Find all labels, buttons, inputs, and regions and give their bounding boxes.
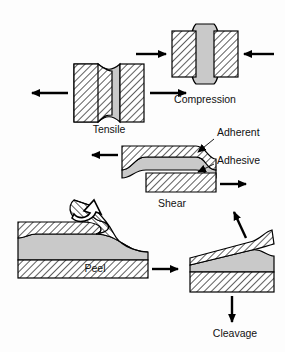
caption-tensile: Tensile [93,123,126,135]
caption-shear: Shear [158,197,187,209]
cleavage-adherent-bottom [190,272,274,292]
caption-compression: Compression [174,93,236,105]
compression-adherent-left [172,31,196,77]
peel-adherent-bottom [18,260,148,278]
tensile-adherent-left-block [74,64,98,122]
caption-cleavage: Cleavage [213,327,258,339]
annotation-adhesive: Adhesive [217,154,260,166]
caption-peel: Peel [84,262,105,274]
shear-adherent-bottom [146,173,216,192]
compression-adherent-right [214,31,238,77]
tensile-adherent-right-block [120,64,144,122]
annotation-adherent: Adherent [217,126,260,138]
loading-modes-figure: Tensile Compression Shear Adherent Adhes… [0,0,285,352]
